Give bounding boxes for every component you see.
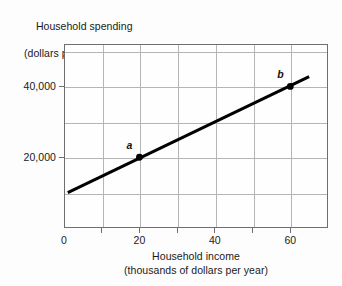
gridline-horizontal [65,194,327,195]
x-minor-tick-mark [101,228,102,233]
gridline-vertical [178,45,179,227]
x-tick-mark [214,228,215,233]
plot-grid [65,45,327,227]
x-axis-title: Household income (thousands of dollars p… [64,250,328,277]
point-label-b: b [277,68,283,80]
gridline-horizontal [65,87,327,88]
gridline-horizontal [65,123,327,124]
gridline-vertical [254,45,255,227]
gridline-vertical [140,45,141,227]
chart-figure: Household spending (dollars per year) 20… [0,0,342,286]
x-tick-label: 0 [44,234,84,246]
y-tick-mark [59,86,64,87]
x-axis-title-line2: (thousands of dollars per year) [64,264,328,278]
gridline-vertical [291,45,292,227]
plot-area [64,44,328,228]
x-tick-mark [139,228,140,233]
y-tick-label: 40,000 [0,80,56,92]
x-minor-tick-mark [177,228,178,233]
y-tick-label: 20,000 [0,151,56,163]
x-axis-title-line1: Household income [152,250,240,262]
gridline-vertical [103,45,104,227]
x-tick-label: 20 [119,234,159,246]
x-minor-tick-mark [252,228,253,233]
y-axis-title-line1: Household spending [36,20,133,32]
gridline-horizontal [65,158,327,159]
gridline-vertical [216,45,217,227]
x-tick-mark [290,228,291,233]
y-tick-mark [59,157,64,158]
x-tick-label: 60 [270,234,310,246]
point-label-a: a [126,139,132,151]
gridline-horizontal [65,52,327,53]
x-tick-label: 40 [195,234,235,246]
